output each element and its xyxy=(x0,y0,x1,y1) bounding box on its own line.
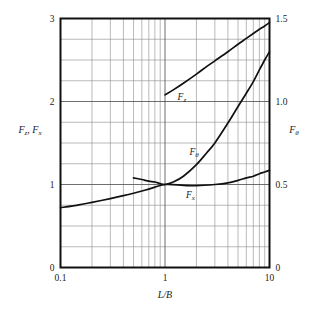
x-axis-tick-1: 1 xyxy=(163,273,168,283)
x-axis-label: L/B xyxy=(157,289,172,300)
y-right-axis-label: Fθ xyxy=(288,124,299,137)
y-axis-label: Fz, Fx xyxy=(17,124,42,137)
curve-label-Fx: Fx xyxy=(185,190,196,202)
chart-figure: 012300.51.01.50.1110Fz, FxFθL/BFzFθFx xyxy=(0,0,315,314)
curve-label-Ftheta: Fθ xyxy=(188,147,199,159)
y-axis-tick-1: 1 xyxy=(50,180,55,190)
y-right-axis-tick-1.5: 1.5 xyxy=(276,14,288,24)
x-axis-tick-0.1: 0.1 xyxy=(55,273,67,283)
chart-canvas: 012300.51.01.50.1110Fz, FxFθL/BFzFθFx xyxy=(0,0,315,314)
x-axis-tick-10: 10 xyxy=(265,273,275,283)
curve-label-Fz: Fz xyxy=(177,92,187,104)
y-right-axis-tick-1.0: 1.0 xyxy=(276,97,288,107)
curve-Ftheta xyxy=(134,52,270,185)
y-right-axis-tick-0.5: 0.5 xyxy=(276,180,288,190)
y-axis-tick-0: 0 xyxy=(50,263,55,273)
y-right-axis-tick-0: 0 xyxy=(276,263,281,273)
y-axis-tick-2: 2 xyxy=(50,97,55,107)
y-axis-tick-3: 3 xyxy=(50,14,55,24)
curve-Fz xyxy=(165,23,270,95)
